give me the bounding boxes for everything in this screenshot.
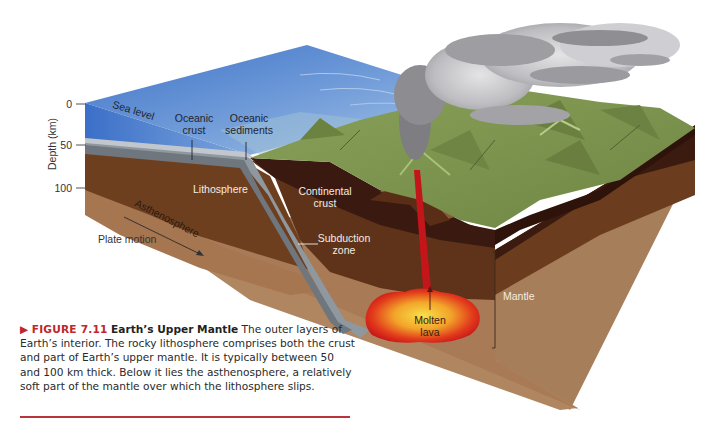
label-continental-crust-line1: Continental (295, 185, 355, 197)
figure-marker-icon: ▶ (20, 323, 28, 335)
label-mantle: Mantle (503, 290, 535, 302)
label-oceanic-crust-line2: crust (172, 124, 216, 136)
label-oceanic-sediments: Oceanic sediments (221, 112, 277, 136)
label-subduction-zone-line1: Subduction (316, 232, 372, 244)
figure-caption: ▶ FIGURE 7.11 Earth’s Upper Mantle The o… (20, 322, 355, 393)
depth-axis-title: Depth (km) (46, 118, 58, 170)
depth-axis (76, 104, 86, 188)
caption-rule (20, 416, 350, 418)
label-oceanic-crust-line1: Oceanic (172, 112, 216, 124)
label-oceanic-crust: Oceanic crust (172, 112, 216, 136)
label-continental-crust-line2: crust (295, 197, 355, 209)
label-subduction-zone-line2: zone (316, 244, 372, 256)
label-lithosphere: Lithosphere (193, 183, 248, 195)
depth-tick-100: 100 (42, 182, 72, 194)
label-oceanic-sediments-line2: sediments (221, 124, 277, 136)
label-plate-motion: Plate motion (98, 233, 156, 245)
earth-upper-mantle-diagram: 0 50 100 Depth (km) Sea level Oceanic cr… (0, 0, 718, 439)
depth-tick-0: 0 (42, 98, 72, 110)
label-oceanic-sediments-line1: Oceanic (221, 112, 277, 124)
label-molten-lava-line2: lava (410, 326, 450, 338)
label-molten-lava: Molten lava (410, 314, 450, 338)
figure-title: Earth’s Upper Mantle (111, 323, 238, 335)
figure-number: FIGURE 7.11 (32, 323, 108, 335)
label-continental-crust: Continental crust (295, 185, 355, 209)
label-subduction-zone: Subduction zone (316, 232, 372, 256)
label-molten-lava-line1: Molten (410, 314, 450, 326)
